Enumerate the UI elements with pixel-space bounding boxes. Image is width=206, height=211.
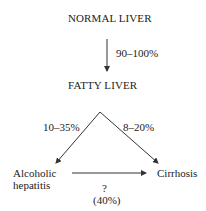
edge-label-hepatitis-to-cirrhosis-percent: (40%) xyxy=(93,194,121,206)
node-normal-liver: NORMAL LIVER xyxy=(68,12,152,24)
node-fatty-liver: FATTY LIVER xyxy=(68,79,137,91)
node-cirrhosis: Cirrhosis xyxy=(157,167,197,179)
edge-label-fatty-to-cirrhosis: 8–20% xyxy=(123,121,154,133)
edge-label-fatty-to-hepatitis: 10–35% xyxy=(43,121,80,133)
edge-label-hepatitis-to-cirrhosis-question: ? xyxy=(102,182,107,194)
arrow-fatty-to-hepatitis xyxy=(56,112,100,163)
edge-label-normal-to-fatty: 90–100% xyxy=(116,47,158,59)
arrow-fatty-to-cirrhosis xyxy=(100,112,158,163)
node-alcoholic-hepatitis-line2: hepatitis xyxy=(13,179,50,191)
node-alcoholic-hepatitis-line1: Alcoholic xyxy=(13,167,56,179)
